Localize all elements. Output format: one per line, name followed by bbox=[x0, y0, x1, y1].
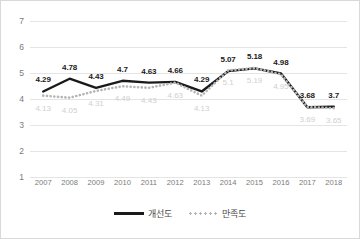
x-tick-2012: 2012 bbox=[167, 179, 184, 187]
series-lines bbox=[30, 21, 347, 177]
y-tick-1: 1 bbox=[19, 173, 24, 182]
x-tick-2018: 2018 bbox=[325, 179, 342, 187]
chart-legend: 개선도 만족도 bbox=[1, 207, 359, 220]
plot-area: 1234567 4.294.784.434.74.634.664.295.075… bbox=[30, 21, 347, 177]
x-axis-tick-labels: 2007200820092010201120122013201420152016… bbox=[30, 179, 347, 193]
x-tick-2010: 2010 bbox=[114, 179, 131, 187]
x-tick-2013: 2013 bbox=[193, 179, 210, 187]
x-tick-2017: 2017 bbox=[299, 179, 316, 187]
legend-label-manjokdo: 만족도 bbox=[222, 207, 246, 220]
y-tick-7: 7 bbox=[19, 17, 24, 26]
legend-label-gaeseondo: 개선도 bbox=[148, 207, 172, 220]
chart-container: 1234567 4.294.784.434.74.634.664.295.075… bbox=[0, 0, 360, 239]
y-tick-2: 2 bbox=[19, 147, 24, 156]
legend-swatch-solid-icon bbox=[114, 212, 144, 215]
x-tick-2008: 2008 bbox=[61, 179, 78, 187]
y-tick-6: 6 bbox=[19, 43, 24, 52]
x-tick-2016: 2016 bbox=[273, 179, 290, 187]
legend-swatch-dotted-icon bbox=[188, 212, 218, 215]
y-tick-3: 3 bbox=[19, 121, 24, 130]
y-tick-4: 4 bbox=[19, 95, 24, 104]
series-line-manjokdo bbox=[43, 68, 334, 108]
legend-item-gaeseondo[interactable]: 개선도 bbox=[114, 207, 172, 220]
x-tick-2007: 2007 bbox=[35, 179, 52, 187]
x-tick-2015: 2015 bbox=[246, 179, 263, 187]
x-tick-2009: 2009 bbox=[88, 179, 105, 187]
x-tick-2011: 2011 bbox=[141, 179, 157, 187]
legend-item-manjokdo[interactable]: 만족도 bbox=[188, 207, 246, 220]
x-tick-2014: 2014 bbox=[220, 179, 237, 187]
y-tick-5: 5 bbox=[19, 69, 24, 78]
